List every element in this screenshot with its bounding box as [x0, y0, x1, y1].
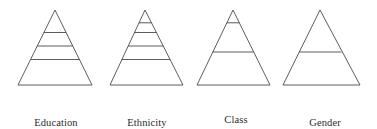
pyramid-education-shape: [6, 0, 106, 90]
pyramid-gender: Gender: [276, 0, 374, 129]
pyramid-class-shape: [188, 0, 284, 90]
pyramid-class: Class (property): [188, 0, 284, 129]
caption-line: Gender: [276, 117, 374, 129]
pyramid-ethnicity-label: Ethnicity: [98, 92, 196, 129]
caption-line: Education: [6, 117, 106, 129]
pyramid-class-label: Class (property): [188, 89, 284, 129]
pyramid-ethnicity: Ethnicity: [98, 0, 196, 129]
pyramid-gender-label: Gender: [276, 92, 374, 129]
pyramid-education: Education: [6, 0, 106, 129]
pyramid-gender-shape: [276, 0, 374, 90]
pyramid-ethnicity-shape: [98, 0, 196, 90]
pyramid-diagram: Education Ethnicity Class (property): [0, 0, 377, 129]
pyramid-education-label: Education: [6, 92, 106, 129]
caption-line: Ethnicity: [98, 117, 196, 129]
caption-line: Class: [188, 114, 284, 127]
